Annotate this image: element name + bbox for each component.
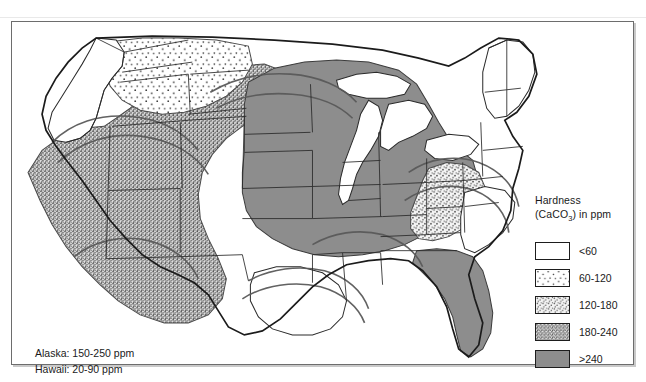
medium-dots-icon [536, 297, 569, 313]
legend-title-line-2: (CaCO3) in ppm [535, 207, 639, 226]
scan-artifact-line [0, 17, 646, 18]
legend-swatch-180-240 [535, 323, 570, 341]
legend-label-120-180: 120-180 [579, 299, 618, 311]
state-notes: Alaska: 150-250 ppm Hawaii: 20-90 ppm [35, 346, 134, 377]
legend-swatch-over-240 [535, 350, 570, 368]
legend-row-under-60[interactable]: <60 [535, 242, 639, 260]
region-under-60-new-england [483, 40, 535, 118]
legend-swatch-60-120 [535, 269, 570, 287]
legend-title-formula-prefix: (CaCO [535, 208, 568, 220]
legend-title-line-1: Hardness [535, 193, 639, 207]
region-over-240-florida [413, 249, 493, 357]
note-alaska: Alaska: 150-250 ppm [35, 346, 134, 362]
legend-label-over-240: >240 [579, 353, 603, 365]
legend: Hardness (CaCO3) in ppm <60 60-120 [535, 193, 639, 377]
legend-row-180-240[interactable]: 180-240 [535, 323, 639, 341]
legend-items: <60 60-120 120-1 [535, 242, 639, 368]
dense-dots-icon [536, 324, 569, 340]
map-frame: Hardness (CaCO3) in ppm <60 60-120 [11, 21, 634, 365]
note-hawaii: Hawaii: 20-90 ppm [35, 362, 134, 378]
legend-row-over-240[interactable]: >240 [535, 350, 639, 368]
legend-title: Hardness (CaCO3) in ppm [535, 193, 639, 226]
sparse-dots-icon [536, 270, 569, 286]
map-layers [28, 36, 537, 357]
lake-ontario-erie-east [425, 134, 479, 160]
legend-row-60-120[interactable]: 60-120 [535, 269, 639, 287]
legend-swatch-under-60 [535, 242, 570, 260]
legend-swatch-120-180 [535, 296, 570, 314]
legend-label-180-240: 180-240 [579, 326, 618, 338]
legend-label-under-60: <60 [579, 245, 597, 257]
legend-title-formula-suffix: ) in ppm [572, 208, 611, 220]
legend-label-60-120: 60-120 [579, 272, 612, 284]
legend-row-120-180[interactable]: 120-180 [535, 296, 639, 314]
map-figure: Hardness (CaCO3) in ppm <60 60-120 [0, 0, 646, 382]
